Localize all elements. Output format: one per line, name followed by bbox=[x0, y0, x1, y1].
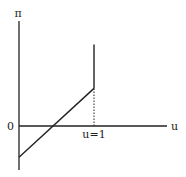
series-profit-linear bbox=[19, 88, 94, 157]
chart: π u 0 u=1 bbox=[0, 0, 186, 177]
x-tick-label-u1: u=1 bbox=[82, 128, 105, 141]
y-axis-label: π bbox=[14, 7, 21, 20]
origin-label: 0 bbox=[7, 120, 14, 133]
x-axis-label: u bbox=[171, 120, 178, 133]
